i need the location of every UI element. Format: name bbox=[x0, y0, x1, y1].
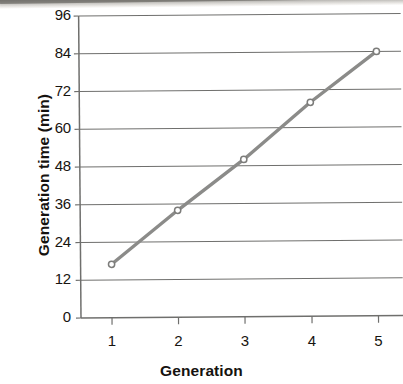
data-point-4 bbox=[307, 99, 313, 105]
gridline-60 bbox=[80, 127, 402, 130]
data-point-2 bbox=[175, 207, 181, 213]
data-point-5 bbox=[373, 48, 379, 54]
gridline-36 bbox=[80, 202, 402, 205]
y-tick-label-48: 48 bbox=[37, 157, 71, 174]
gridline-24 bbox=[80, 240, 402, 243]
y-tick-label-24: 24 bbox=[37, 233, 71, 250]
x-axis-title: Generation bbox=[0, 362, 403, 380]
gridline-0 bbox=[81, 315, 403, 318]
y-tick-label-84: 84 bbox=[37, 44, 71, 61]
y-tick-label-36: 36 bbox=[37, 195, 71, 212]
gridline-96 bbox=[79, 13, 401, 16]
y-tick-label-96: 96 bbox=[37, 6, 71, 23]
y-tick-label-60: 60 bbox=[37, 119, 71, 136]
x-tick-label-1: 1 bbox=[100, 332, 124, 349]
data-point-1 bbox=[108, 261, 114, 267]
x-tick-label-2: 2 bbox=[167, 332, 191, 349]
chart-figure: Generation time (min) Generation 0122436… bbox=[0, 0, 403, 384]
gridline-12 bbox=[81, 278, 403, 281]
x-tick-label-3: 3 bbox=[233, 332, 257, 349]
x-tick-label-5: 5 bbox=[367, 332, 391, 349]
gridline-84 bbox=[79, 51, 401, 54]
data-point-3 bbox=[241, 156, 247, 162]
y-tick-label-72: 72 bbox=[37, 82, 71, 99]
gridline-72 bbox=[79, 89, 401, 92]
gridline-48 bbox=[80, 164, 402, 167]
y-tick-label-0: 0 bbox=[37, 308, 71, 325]
y-tick-label-12: 12 bbox=[37, 270, 71, 287]
x-tick-label-4: 4 bbox=[300, 332, 324, 349]
